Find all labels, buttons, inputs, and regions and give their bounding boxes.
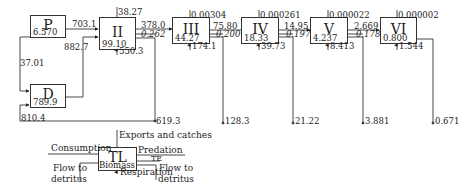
legend-flow-to-detritus-right-line2: detritus xyxy=(158,174,194,185)
detritus-iv: 21.22 xyxy=(295,116,319,126)
exports-iii: 0.00304 xyxy=(191,10,226,20)
respiration-arrow-icon: ◂ xyxy=(394,40,398,50)
te-iv-v: 0.197 xyxy=(286,29,310,39)
detritus-vi: 0.671 xyxy=(435,116,459,126)
te-iii-iv: 0.200 xyxy=(216,29,240,39)
respiration-arrow-icon: ◂ xyxy=(325,40,329,50)
detritus-v: 3.881 xyxy=(365,116,389,126)
compartment-v: V 4.237 xyxy=(310,17,348,44)
detritus-ii: 619.3 xyxy=(156,116,180,126)
exports-v: 0.000022 xyxy=(329,10,370,20)
compartment-d: D 789.9 xyxy=(30,84,66,108)
respiration-arrow-icon: ◂ xyxy=(114,45,118,55)
te-v-vi: 0.178 xyxy=(356,29,380,39)
compartment-iv: IV 18.33 xyxy=(241,17,279,44)
compartment-biomass: 6.570 xyxy=(33,27,57,37)
flow-p-to-d: 37.01 xyxy=(20,58,44,68)
legend-flow-to-detritus-right-line1: Flow to xyxy=(159,163,193,174)
compartment-vi: VI 0.800 xyxy=(380,17,417,44)
respiration-arrow-icon: ◂ xyxy=(187,40,191,50)
legend-consumption: Consumption xyxy=(51,143,112,154)
compartment-p: P 6.570 xyxy=(30,15,66,38)
flow-p-to-ii: 703.1 xyxy=(72,19,96,29)
compartment-name: II xyxy=(100,24,135,40)
compartment-iii: III 44.27 xyxy=(172,17,210,44)
trophic-flow-diagram: P 6.570 D 789.9 II 99.10 III 44.27 IV 18… xyxy=(0,0,468,193)
respiration-iii: 174.1 xyxy=(192,41,216,51)
flow-to-d-total: 810.4 xyxy=(21,113,45,123)
respiration-arrow-icon: ◂ xyxy=(256,40,260,50)
flow-d-to-ii: 882.7 xyxy=(64,42,88,52)
compartment-biomass: 789.9 xyxy=(33,97,57,107)
exports-ii: 38.27 xyxy=(118,7,142,17)
legend-exports: Exports and catches xyxy=(119,130,212,141)
respiration-iv: 39.73 xyxy=(261,41,285,51)
legend-flow-to-detritus-left-line2: detritus xyxy=(51,174,87,185)
respiration-vi: 1.544 xyxy=(399,41,423,51)
exports-iv: 0.000261 xyxy=(260,10,301,20)
respiration-arrow-icon: ◂ xyxy=(114,167,118,177)
te-ii-iii: 0.262 xyxy=(141,29,165,39)
respiration-v: 8.413 xyxy=(330,41,354,51)
detritus-iii: 128.3 xyxy=(225,116,249,126)
exports-vi: 0.000002 xyxy=(398,10,439,20)
respiration-ii: 550.3 xyxy=(119,46,143,56)
legend-flow-to-detritus-left-line1: Flow to xyxy=(53,163,87,174)
